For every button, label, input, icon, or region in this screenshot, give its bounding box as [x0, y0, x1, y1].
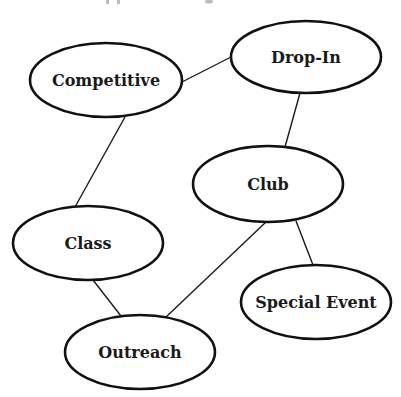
edge-club-specialevent [296, 221, 313, 265]
edge-dropin-club [285, 93, 300, 147]
node-special-event: Special Event [241, 265, 391, 339]
concept-map-diagram: Competitive Drop-In Club Class Special E… [0, 0, 401, 397]
node-label: Special Event [255, 293, 377, 312]
node-drop-in: Drop-In [231, 21, 381, 93]
node-competitive: Competitive [30, 43, 182, 117]
cut-off-title-fragment [106, 0, 213, 4]
node-label: Outreach [98, 343, 182, 362]
node-label: Club [247, 175, 289, 194]
nodes: Competitive Drop-In Club Class Special E… [13, 21, 391, 389]
node-outreach: Outreach [65, 315, 215, 389]
edge-class-outreach [93, 280, 121, 316]
node-label: Class [64, 234, 111, 253]
edge-competitive-dropin [180, 57, 231, 83]
node-label: Drop-In [271, 48, 341, 67]
edge-competitive-class [75, 117, 125, 207]
node-label: Competitive [52, 71, 160, 90]
node-club: Club [193, 146, 343, 222]
node-class: Class [13, 206, 163, 280]
